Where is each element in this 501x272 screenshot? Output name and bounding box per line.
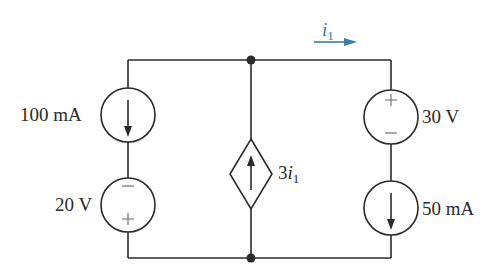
i1-arrowhead-icon <box>344 38 357 46</box>
label-30v: 30 V <box>422 107 459 126</box>
dep-subscript: 1 <box>293 171 300 186</box>
bottom-node-dot <box>247 254 256 263</box>
label-20v: 20 V <box>55 195 92 214</box>
top-node-dot <box>247 56 256 65</box>
arrowhead-icon <box>124 126 132 137</box>
dep-coefficient: 3 <box>278 162 288 183</box>
plus-sign-20v <box>122 213 134 225</box>
label-dependent-source: 3i1 <box>278 163 299 185</box>
circuit-diagram <box>0 0 501 272</box>
i1-subscript: 1 <box>327 28 334 43</box>
plus-sign-30v <box>385 94 397 106</box>
label-100ma: 100 mA <box>20 105 82 124</box>
arrowhead-icon <box>247 155 255 166</box>
label-i1: i1 <box>322 20 334 42</box>
label-50ma: 50 mA <box>422 199 474 218</box>
arrowhead-icon <box>387 219 395 230</box>
